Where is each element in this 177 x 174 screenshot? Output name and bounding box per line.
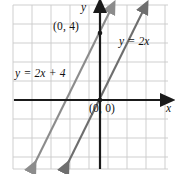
point-label-y-intercept: (0, 4) [53,21,79,33]
equation-text-right: y = 2x [119,35,150,47]
y-intercept-point [98,31,103,36]
equation-label-y-equals-2x: y = 2x [119,36,150,48]
equation-label-y-equals-2x-plus-4: y = 2x + 4 [15,68,66,80]
graph-figure: (0, 4) y = 2x y = 2x + 4 (0, 0) y x [0,0,177,174]
y-axis-label: y [81,2,86,14]
equation-text-left: y = 2x + 4 [15,67,66,79]
coordinate-plane [0,0,177,174]
x-axis-label: x [166,103,171,115]
point-label-origin: (0, 0) [89,103,115,115]
grid-lines [13,5,168,169]
